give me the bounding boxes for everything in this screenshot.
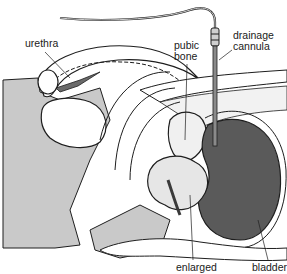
label-drainage-cannula: drainage cannula (233, 30, 274, 52)
label-enlarged: enlarged (176, 262, 217, 273)
glans (38, 70, 58, 94)
label-pubic-bone: pubic bone (174, 40, 199, 62)
cannula-leader (219, 50, 232, 60)
cannula-shaft (213, 46, 217, 146)
bladder (198, 119, 281, 240)
label-urethra: urethra (25, 38, 58, 49)
pubic-bone (168, 112, 206, 162)
label-bladder: bladder (252, 262, 287, 273)
diagram-canvas: urethra pubic bone drainage cannula enla… (0, 0, 287, 274)
cannula-connector (211, 28, 219, 46)
corpus-loop-1 (100, 72, 170, 140)
prostate (148, 156, 208, 209)
label-cannula-line2: cannula (233, 41, 274, 52)
label-pubic-line2: bone (174, 51, 199, 62)
